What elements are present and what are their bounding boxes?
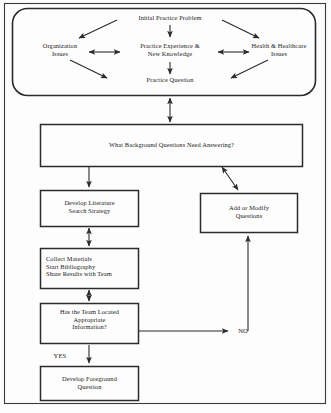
flowchart-page: Initial Practice Problem Organization Is… — [0, 0, 331, 413]
edge-background-addmodify-bidirectional — [222, 167, 238, 190]
health-healthcare-issues-label: Health & Healthcare Issues — [244, 42, 314, 57]
no-label: NO — [232, 327, 254, 335]
practice-experience-new-knowledge-label: Practice Experience & New Knowledge — [122, 42, 218, 57]
yes-label: YES — [46, 352, 74, 360]
edge-problem-to-health — [222, 20, 259, 38]
organization-issues-label: Organization Issues — [25, 42, 95, 57]
edge-health-to-practice-question — [231, 60, 268, 78]
background-questions-label: What Background Questions Need Answering… — [50, 141, 293, 149]
practice-question-label: Practice Question — [125, 76, 215, 84]
add-or-modify-questions-label: Add or Modify Questions — [204, 204, 294, 219]
collect-materials-label: Collect Materials Start Bibliography Sha… — [46, 255, 141, 278]
edge-problem-to-organization — [79, 20, 117, 38]
initial-practice-problem-label: Initial Practice Problem — [110, 14, 230, 22]
develop-foreground-question-label: Develop Foreground Question — [44, 375, 135, 390]
team-located-information-label: Has the Team Located Appropriate Informa… — [43, 308, 136, 331]
edge-organization-to-practice-question — [70, 60, 107, 78]
develop-literature-label: Develop Literature Search Strategy — [44, 199, 135, 214]
